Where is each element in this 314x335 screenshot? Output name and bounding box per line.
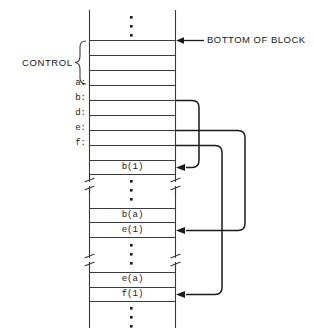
cell-b-a: b(a) bbox=[90, 210, 175, 220]
side-label-e: e: bbox=[58, 123, 86, 133]
cell-e-1: e(1) bbox=[90, 225, 175, 235]
bottom-of-block-arrow-head bbox=[176, 37, 184, 44]
pointer-curve-b bbox=[176, 101, 199, 168]
pointer-arrowhead-e bbox=[176, 227, 185, 234]
pointer-arrowhead-b bbox=[176, 164, 185, 171]
mid1-ellipsis-dot-1 bbox=[130, 180, 133, 183]
block-layout-figure: CONTROL BOTTOM OF BLOCK a: b: d: e: f: b… bbox=[0, 0, 314, 335]
top-ellipsis-dot-1 bbox=[130, 16, 133, 19]
pointer-arrowheads bbox=[176, 164, 185, 298]
cell-f-1: f(1) bbox=[90, 289, 175, 299]
bottom-of-block-label: BOTTOM OF BLOCK bbox=[207, 34, 306, 45]
control-label: CONTROL bbox=[22, 57, 73, 68]
mid2-ellipsis-dot-2 bbox=[130, 253, 133, 256]
pointer-arrowhead-f bbox=[176, 291, 185, 298]
side-label-f: f: bbox=[58, 138, 86, 148]
bottom-ellipsis-dot-2 bbox=[130, 316, 133, 319]
mid2-ellipsis-dot-1 bbox=[130, 244, 133, 247]
top-ellipsis-dot-3 bbox=[130, 34, 133, 37]
cell-b-1: b(1) bbox=[90, 162, 175, 172]
top-ellipsis-dot-2 bbox=[130, 25, 133, 28]
cell-e-a: e(a) bbox=[90, 274, 175, 284]
bottom-ellipsis-dot-3 bbox=[130, 325, 133, 328]
side-label-a: a: bbox=[58, 78, 86, 88]
side-label-b: b: bbox=[58, 93, 86, 103]
side-label-d: d: bbox=[58, 108, 86, 118]
bottom-ellipsis-dot-1 bbox=[130, 307, 133, 310]
bottom-of-block-arrow bbox=[176, 37, 204, 44]
mid1-ellipsis-dot-3 bbox=[130, 198, 133, 201]
mid2-ellipsis-dot-3 bbox=[130, 262, 133, 265]
pointer-curves bbox=[176, 101, 245, 295]
mid1-ellipsis-dot-2 bbox=[130, 189, 133, 192]
